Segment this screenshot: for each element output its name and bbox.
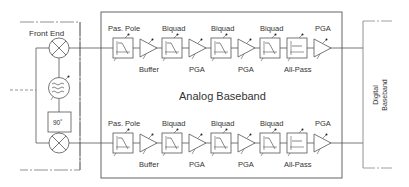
label-pga: PGA <box>189 160 205 169</box>
biquad-filter-icon <box>211 34 231 62</box>
pga-amp-icon <box>189 39 206 60</box>
label-biquad: Biquad <box>260 119 283 128</box>
top-signal-chain <box>113 34 331 62</box>
pga-amp-icon <box>189 134 206 155</box>
biquad-filter-icon <box>260 129 280 157</box>
pga-amp-icon <box>238 39 255 60</box>
front-end-region <box>10 22 80 170</box>
label-pga: PGA <box>238 65 254 74</box>
label-buffer: Buffer <box>139 65 159 74</box>
pga-amp-icon <box>314 39 331 60</box>
biquad-filter-icon <box>162 34 182 62</box>
label-pga: PGA <box>315 119 331 128</box>
buffer-amp-icon <box>140 39 157 60</box>
pga-amp-icon <box>238 134 255 155</box>
biquad-filter-icon <box>162 129 182 157</box>
front-end-label: Front End <box>29 29 64 38</box>
digital-baseband-label-line2: Baseband <box>381 79 388 111</box>
label-pas-pole: Pas. Pole <box>108 24 140 33</box>
label-biquad: Biquad <box>211 24 234 33</box>
label-pga: PGA <box>315 24 331 33</box>
label-pas-pole: Pas. Pole <box>108 119 140 128</box>
buffer-amp-icon <box>140 134 157 155</box>
label-biquad: Biquad <box>260 24 283 33</box>
label-all-pass: All-Pass <box>284 65 312 74</box>
label-pga: PGA <box>238 160 254 169</box>
passive-pole-filter-icon <box>113 129 133 157</box>
biquad-filter-icon <box>260 34 280 62</box>
label-pga: PGA <box>189 65 205 74</box>
label-biquad: Biquad <box>162 119 185 128</box>
label-all-pass: All-Pass <box>284 160 312 169</box>
phase-shift-label: 90˚ <box>53 119 62 126</box>
pga-amp-icon <box>314 134 331 155</box>
bottom-mixer-icon <box>49 133 69 153</box>
rf-receiver-block-diagram: Front End 90˚ Analog Baseband Pas. Pole … <box>0 0 409 187</box>
label-biquad: Biquad <box>211 119 234 128</box>
all-pass-filter-icon <box>287 129 307 157</box>
passive-pole-filter-icon <box>113 34 133 62</box>
label-buffer: Buffer <box>139 160 159 169</box>
all-pass-filter-icon <box>287 34 307 62</box>
analog-baseband-label: Analog Baseband <box>179 90 266 102</box>
top-mixer-icon <box>49 38 69 58</box>
digital-baseband-label-line1: Digital <box>372 85 380 105</box>
bottom-signal-chain <box>113 129 331 157</box>
biquad-filter-icon <box>211 129 231 157</box>
local-oscillator-icon <box>49 76 70 101</box>
label-biquad: Biquad <box>162 24 185 33</box>
